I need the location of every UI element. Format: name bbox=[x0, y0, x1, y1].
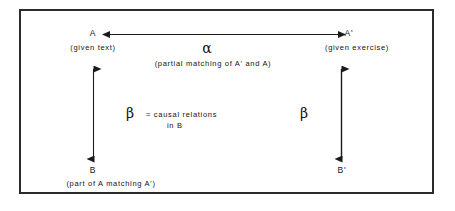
node-label-b-prime: B' bbox=[338, 166, 347, 176]
node-caption-b: (part of A matching A') bbox=[66, 180, 155, 189]
node-label-a-prime: A' bbox=[345, 29, 354, 39]
edge-label-beta-left: β bbox=[126, 106, 134, 120]
edge-caption-alpha: (partial matching of A' and A) bbox=[155, 60, 272, 69]
diagram-frame bbox=[19, 9, 434, 194]
edge-label-alpha: α bbox=[202, 41, 211, 55]
edge-caption-beta-left-line2: in B bbox=[167, 121, 183, 132]
edge-caption-beta-left-line1: = causal relations bbox=[146, 110, 217, 121]
node-caption-a-prime: (given exercise) bbox=[325, 44, 389, 53]
diagram-page: A (given text) A' (given exercise) α (pa… bbox=[0, 0, 455, 211]
node-label-a: A bbox=[90, 29, 96, 39]
node-label-b: B bbox=[90, 166, 96, 176]
node-caption-a: (given text) bbox=[70, 44, 116, 53]
edge-label-beta-right: β bbox=[300, 106, 308, 120]
